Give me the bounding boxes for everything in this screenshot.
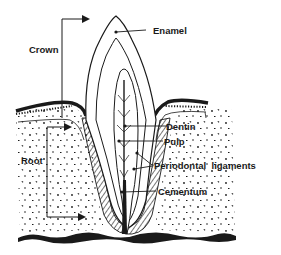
label-crown: Crown [29,45,59,55]
label-pulp: Pulp [164,137,185,147]
label-dentin: Dentin [166,122,196,132]
label-cementum: Cementum [158,187,207,197]
label-enamel: Enamel [153,26,187,36]
tooth-diagram-svg [0,0,281,255]
label-periodontal-ligaments: Periodontal ligaments [154,161,256,171]
tooth-diagram: Crown Root Enamel Dentin Pulp Periodonta… [0,0,281,255]
label-root: Root [21,156,43,166]
